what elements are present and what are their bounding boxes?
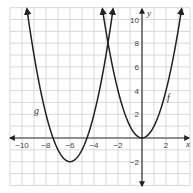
y-axis-label: y <box>146 8 151 18</box>
axes <box>10 9 189 186</box>
curves <box>27 9 182 162</box>
curve-label-f: f <box>167 92 171 103</box>
y-tick-label: 10 <box>130 16 139 25</box>
x-tick-label: −2 <box>113 141 123 150</box>
x-tick-label: −8 <box>41 141 51 150</box>
coordinate-plane-chart: −10−8−6−4−22108642−2 x y f g <box>0 0 193 193</box>
y-tick-label: 2 <box>135 110 140 119</box>
y-tick-label: 6 <box>135 63 140 72</box>
y-tick-label: 8 <box>135 39 140 48</box>
curve-label-g: g <box>34 105 39 116</box>
grid-lines <box>10 8 190 186</box>
x-axis-label: x <box>185 139 190 149</box>
y-tick-label: −2 <box>130 158 140 167</box>
y-tick-label: 4 <box>135 87 140 96</box>
tick-labels: −10−8−6−4−22108642−2 <box>15 16 169 167</box>
x-tick-label: 2 <box>164 141 169 150</box>
x-tick-label: −4 <box>89 141 99 150</box>
x-tick-label: −10 <box>15 141 29 150</box>
x-tick-label: −6 <box>65 141 75 150</box>
